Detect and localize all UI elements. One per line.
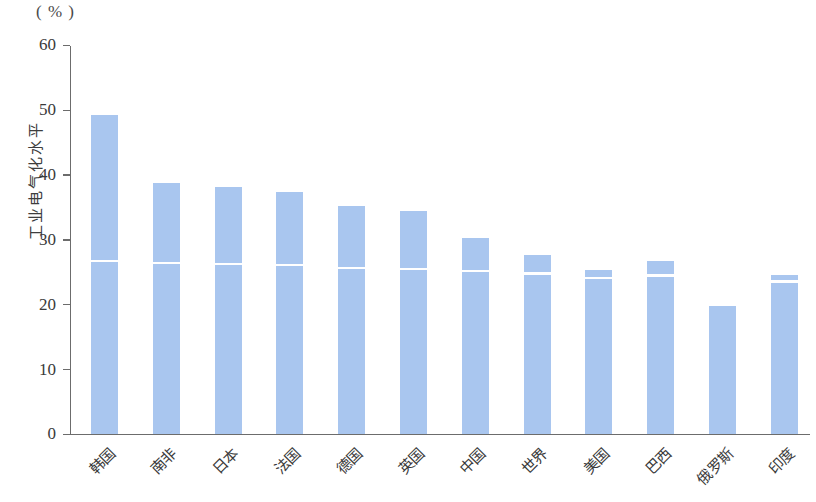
bar: [709, 306, 736, 434]
y-axis-line: [70, 46, 71, 435]
y-axis-unit-label: ( % ): [36, 2, 75, 22]
bar-segment-divider: [771, 280, 798, 282]
bar: [647, 261, 674, 434]
y-axis-tick: 10: [63, 369, 70, 370]
y-axis-tick-label: 10: [39, 359, 56, 379]
bar-segment-divider: [647, 274, 674, 276]
bar-segment-divider: [462, 270, 489, 272]
plot-area: 0102030405060 韩国南非日本法国德国英国中国世界美国巴西俄罗斯印度: [70, 46, 810, 435]
bar: [462, 238, 489, 433]
bar: [215, 187, 242, 433]
bar: [91, 115, 118, 433]
bar-segment-divider: [338, 267, 365, 269]
bar-segment-divider: [215, 263, 242, 265]
y-axis-tick: 50: [63, 110, 70, 111]
bar-segment-divider: [524, 272, 551, 274]
bar: [276, 192, 303, 433]
y-axis-tick-label: 50: [39, 100, 56, 120]
y-axis-tick: 40: [63, 174, 70, 175]
bar: [338, 206, 365, 434]
bar-segment-divider: [91, 260, 118, 262]
bar-chart-figure: ( % ) 工业电气化水平 0102030405060 韩国南非日本法国德国英国…: [0, 0, 816, 502]
y-axis-tick: 60: [63, 45, 70, 46]
bar-segment-divider: [585, 277, 612, 279]
y-axis-tick-label: 0: [48, 424, 57, 444]
x-axis-line: [70, 434, 810, 435]
x-axis-tick-label: 韩国: [34, 442, 120, 502]
bar: [771, 275, 798, 434]
y-axis-tick-label: 30: [39, 230, 56, 250]
y-axis-tick-label: 60: [39, 35, 56, 55]
bar: [524, 255, 551, 433]
bar: [400, 211, 427, 434]
bar-segment-divider: [153, 262, 180, 264]
y-axis-tick-label: 40: [39, 165, 56, 185]
y-axis-tick: 30: [63, 239, 70, 240]
bar: [585, 270, 612, 433]
y-axis-tick: 20: [63, 304, 70, 305]
bar-segment-divider: [400, 268, 427, 270]
bar-segment-divider: [276, 264, 303, 266]
bar: [153, 183, 180, 433]
y-axis-tick: 0: [63, 434, 70, 435]
y-axis-tick-label: 20: [39, 294, 56, 314]
